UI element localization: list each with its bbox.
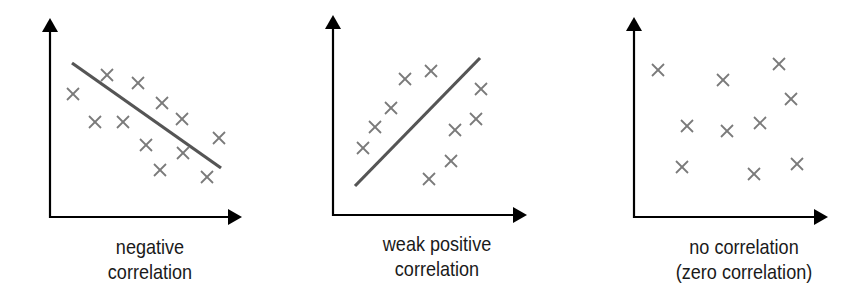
x-marker-icon — [156, 97, 168, 109]
y-axis-arrow-icon — [626, 17, 642, 31]
x-marker-icon — [154, 164, 166, 176]
x-marker-icon — [101, 69, 113, 81]
caption-line-2: (zero correlation) — [649, 259, 838, 284]
x-marker-icon — [470, 113, 482, 125]
trend-line — [72, 63, 221, 168]
x-marker-icon — [445, 155, 457, 167]
x-marker-icon — [357, 142, 369, 154]
negative-correlation-chart — [42, 18, 242, 225]
caption-line-1: weak positive — [351, 231, 523, 256]
x-marker-icon — [748, 168, 760, 180]
y-axis-arrow-icon — [42, 18, 58, 32]
x-marker-icon — [117, 116, 129, 128]
x-marker-icon — [773, 58, 785, 70]
caption-line-1: negative — [64, 234, 236, 259]
x-marker-icon — [399, 73, 411, 85]
x-axis-arrow-icon — [814, 209, 828, 225]
x-marker-icon — [717, 74, 729, 86]
x-marker-icon — [369, 121, 381, 133]
x-marker-icon — [785, 93, 797, 105]
weak-positive-correlation-caption: weak positive correlation — [351, 231, 523, 281]
x-marker-icon — [721, 125, 733, 137]
x-marker-icon — [140, 139, 152, 151]
x-marker-icon — [132, 77, 144, 89]
no-correlation-chart — [626, 17, 828, 225]
x-axis-arrow-icon — [513, 207, 527, 223]
y-axis-arrow-icon — [325, 15, 341, 29]
weak-positive-correlation-chart — [325, 15, 527, 223]
x-marker-icon — [67, 88, 79, 100]
x-marker-icon — [89, 116, 101, 128]
x-axis-arrow-icon — [228, 209, 242, 225]
x-marker-icon — [475, 83, 487, 95]
x-marker-icon — [754, 117, 766, 129]
caption-line-1: no correlation — [649, 234, 838, 259]
trend-line — [355, 58, 480, 186]
x-marker-icon — [652, 64, 664, 76]
x-marker-icon — [449, 124, 461, 136]
x-marker-icon — [213, 132, 225, 144]
caption-line-2: correlation — [351, 256, 523, 281]
x-marker-icon — [681, 120, 693, 132]
x-marker-icon — [676, 161, 688, 173]
x-marker-icon — [423, 173, 435, 185]
negative-correlation-caption: negative correlation — [64, 234, 236, 284]
caption-line-2: correlation — [64, 259, 236, 284]
x-marker-icon — [201, 171, 213, 183]
x-marker-icon — [177, 147, 189, 159]
x-marker-icon — [385, 102, 397, 114]
x-marker-icon — [425, 65, 437, 77]
x-marker-icon — [176, 113, 188, 125]
no-correlation-caption: no correlation (zero correlation) — [649, 234, 838, 284]
x-marker-icon — [791, 158, 803, 170]
